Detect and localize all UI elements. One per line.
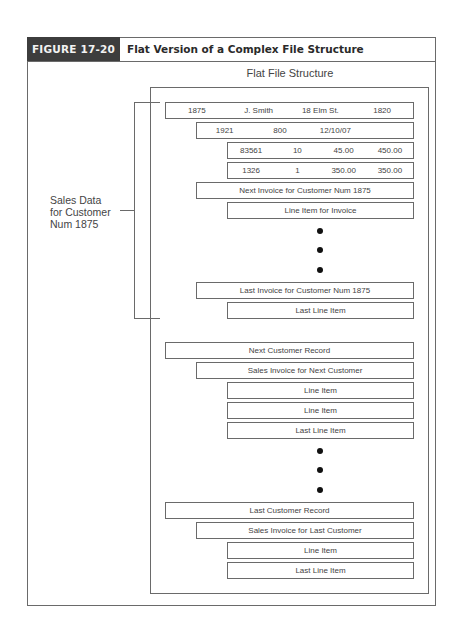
item-price: 350.00 xyxy=(321,163,367,178)
customer-num: 1875 xyxy=(166,103,228,118)
customer-name: J. Smith xyxy=(228,103,290,118)
invoice-date: 12/10/07 xyxy=(308,123,363,138)
customer-record-row: 1875 J. Smith 18 Elm St. 1820 xyxy=(165,102,414,119)
sales-invoice-last-row: Sales Invoice for Last Customer xyxy=(196,522,414,539)
item-total: 350.00 xyxy=(367,163,413,178)
line-item-row: 83561 10 45.00 450.00 xyxy=(227,142,414,159)
line-item-for-invoice-row: Line Item for Invoice xyxy=(227,202,414,219)
next-customer-record-row: Next Customer Record xyxy=(165,342,414,359)
line-item-row: 1326 1 350.00 350.00 xyxy=(227,162,414,179)
item-qty: 1 xyxy=(274,163,320,178)
sales-invoice-next-row: Sales Invoice for Next Customer xyxy=(196,362,414,379)
ellipsis-dot xyxy=(317,448,323,454)
line-item-row: Line Item xyxy=(227,402,414,419)
invoice-record-row: 1921 800 12/10/07 xyxy=(196,122,414,139)
figure-number-label: FIGURE 17-20 xyxy=(27,37,120,61)
bracket-label-line: for Customer xyxy=(50,206,111,218)
last-line-item-row: Last Line Item xyxy=(227,562,414,579)
header-divider xyxy=(27,61,436,62)
item-num: 83561 xyxy=(228,143,274,158)
last-line-item-row: Last Line Item xyxy=(227,302,414,319)
last-invoice-row: Last Invoice for Customer Num 1875 xyxy=(196,282,414,299)
customer-balance: 1820 xyxy=(351,103,413,118)
line-item-row: Line Item xyxy=(227,542,414,559)
invoice-amount: 800 xyxy=(252,123,307,138)
ellipsis-dot xyxy=(317,487,323,493)
bracket-pointer xyxy=(120,210,134,211)
bracket-label-line: Num 1875 xyxy=(50,218,111,230)
item-num: 1326 xyxy=(228,163,274,178)
bracket-label-line: Sales Data xyxy=(50,194,111,206)
ellipsis-dot xyxy=(317,267,323,273)
bracket-top xyxy=(134,102,160,103)
last-line-item-row: Last Line Item xyxy=(227,422,414,439)
ellipsis-dot xyxy=(317,228,323,234)
item-total: 450.00 xyxy=(367,143,413,158)
bracket-line xyxy=(134,102,135,318)
invoice-num: 1921 xyxy=(197,123,252,138)
last-customer-record-row: Last Customer Record xyxy=(165,502,414,519)
line-item-row: Line Item xyxy=(227,382,414,399)
item-price: 45.00 xyxy=(321,143,367,158)
diagram-subtitle: Flat File Structure xyxy=(150,67,430,79)
next-invoice-row: Next Invoice for Customer Num 1875 xyxy=(196,182,414,199)
customer-address: 18 Elm St. xyxy=(290,103,352,118)
figure-title: Flat Version of a Complex File Structure xyxy=(127,37,364,61)
item-qty: 10 xyxy=(274,143,320,158)
ellipsis-dot xyxy=(317,467,323,473)
ellipsis-dot xyxy=(317,247,323,253)
bracket-bottom xyxy=(134,318,160,319)
bracket-label: Sales Data for Customer Num 1875 xyxy=(50,194,111,230)
